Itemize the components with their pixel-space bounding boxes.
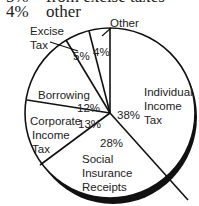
svg-text:12%: 12% — [77, 102, 100, 114]
svg-text:Excise: Excise — [30, 25, 64, 37]
svg-text:Tax: Tax — [32, 143, 50, 155]
svg-text:28%: 28% — [100, 137, 123, 149]
svg-text:Other: Other — [110, 17, 139, 29]
svg-text:13%: 13% — [78, 118, 101, 130]
svg-text:4%: 4% — [93, 46, 110, 58]
svg-text:Borrowing: Borrowing — [38, 89, 90, 101]
svg-text:Individual: Individual — [144, 86, 193, 98]
svg-text:Receipts: Receipts — [82, 181, 127, 193]
svg-text:5%: 5% — [73, 50, 90, 62]
svg-text:Income: Income — [32, 129, 70, 141]
svg-text:Insurance: Insurance — [82, 167, 133, 179]
svg-text:Tax: Tax — [30, 39, 48, 51]
svg-text:Income: Income — [144, 100, 182, 112]
svg-text:Tax: Tax — [144, 114, 162, 126]
svg-text:Corporate: Corporate — [30, 115, 81, 127]
svg-text:38%: 38% — [117, 109, 140, 121]
svg-text:Social: Social — [82, 153, 113, 165]
pie-chart: Individual Income Tax 38% Social Insuran… — [0, 0, 199, 206]
